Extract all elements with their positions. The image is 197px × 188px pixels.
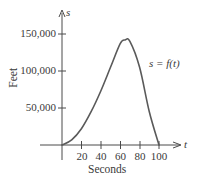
y-axis-variable: s	[66, 7, 70, 18]
y-tick-label-150000: 150,000	[2, 28, 56, 39]
y-axis-title: Feet	[8, 68, 20, 88]
x-axis-title: Seconds	[88, 164, 126, 176]
x-axis-variable: t	[184, 139, 187, 150]
x-tick-label-100: 100	[147, 151, 171, 162]
y-tick-label-50000: 50,000	[2, 102, 56, 113]
curve-s-equals-f-of-t	[62, 39, 159, 145]
curve-label: s = f(t)	[149, 58, 180, 69]
